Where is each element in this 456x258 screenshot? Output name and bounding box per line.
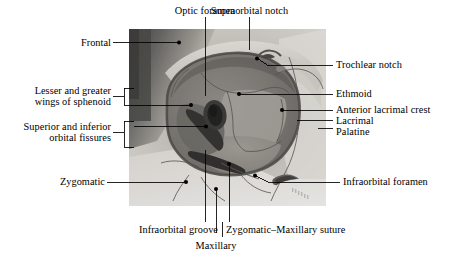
label-maxillary: Maxillary (171, 240, 261, 251)
label-anterior-lacrimal-crest: Anterior lacrimal crest (336, 104, 430, 115)
orbit-anatomy-figure: Optic foramen Supraorbital notch Frontal… (0, 0, 456, 258)
label-lacrimal: Lacrimal (336, 115, 374, 126)
label-palatine: Palatine (336, 126, 370, 137)
label-infraorbital-foramen: Infraorbital foramen (343, 176, 428, 187)
orbit-photograph (129, 29, 326, 206)
label-supraorbital-notch: Supraorbital notch (192, 5, 307, 16)
label-lesser-greater-wings-line1: Lesser and greater (0, 85, 111, 96)
label-orbital-fissures-line1: Superior and inferior (0, 121, 111, 132)
label-trochlear-notch: Trochlear notch (336, 59, 402, 70)
label-ethmoid: Ethmoid (336, 88, 372, 99)
label-zygomatic-maxillary-suture: Zygomatic–Maxillary suture (226, 224, 345, 235)
label-orbital-fissures-line2: orbital fissures (0, 132, 111, 143)
label-infraorbital-groove: Infraorbital groove (96, 224, 218, 235)
label-frontal: Frontal (0, 37, 111, 48)
label-lesser-greater-wings-line2: wings of sphenoid (0, 96, 111, 107)
label-zygomatic: Zygomatic (0, 176, 105, 187)
